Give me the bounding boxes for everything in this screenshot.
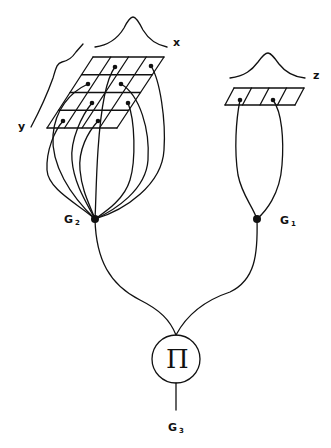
x-distribution-curve xyxy=(95,17,167,47)
product-symbol: Π xyxy=(166,346,189,372)
x-label: x xyxy=(173,37,180,48)
z-wires xyxy=(236,100,283,219)
xy-wires xyxy=(47,66,164,219)
diagram-canvas: x y z G2 G1 G3 Π xyxy=(0,0,331,448)
g1-label-sub: 1 xyxy=(291,220,296,228)
z-label: z xyxy=(313,70,319,81)
g2-to-product-wire xyxy=(95,219,176,335)
grid-dots xyxy=(61,64,276,124)
z-distribution-curve xyxy=(230,53,305,78)
y-label: y xyxy=(18,121,25,132)
g3-label-main: G xyxy=(168,421,177,434)
z-strip xyxy=(225,88,304,105)
g2-label-main: G xyxy=(64,213,73,226)
g2-label: G2 xyxy=(64,214,80,227)
g2-node xyxy=(91,215,99,223)
g1-label: G1 xyxy=(280,215,296,228)
g3-label-sub: 3 xyxy=(179,427,184,435)
g2-label-sub: 2 xyxy=(75,219,80,227)
g3-label: G3 xyxy=(168,422,184,435)
g1-node xyxy=(253,215,261,223)
g1-label-main: G xyxy=(280,214,289,227)
g1-to-product-wire xyxy=(176,219,257,335)
